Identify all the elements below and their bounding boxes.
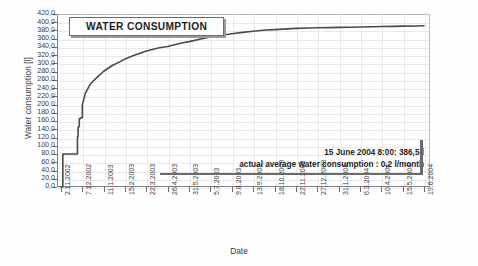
annotation-line-2: actual average water consumption : 0,2 l…: [156, 159, 424, 171]
x-axis-title: Date: [0, 246, 478, 256]
chart-figure: Water consumption [l] 420,0400,0380,0360…: [0, 0, 478, 266]
annotation-underline: [160, 173, 423, 175]
annotation-block: 15 June 2004 8:00: 386,5 l actual averag…: [156, 147, 424, 171]
chart-title-box: WATER CONSUMPTION: [69, 17, 224, 36]
data-line-series: [0, 0, 478, 266]
annotation-line-1: 15 June 2004 8:00: 386,5 l: [156, 147, 424, 159]
annotation-bracket: [420, 140, 423, 175]
